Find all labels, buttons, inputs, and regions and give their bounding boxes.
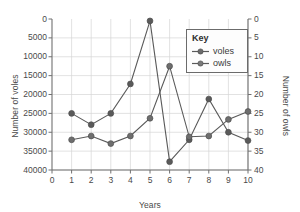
data-point-owls-3 [108,141,114,147]
data-point-voles-6 [167,159,173,165]
data-point-voles-9 [226,129,232,135]
data-point-voles-8 [206,96,212,102]
legend-title: Key [192,33,242,43]
legend-item-voles: voles [192,45,242,57]
data-point-voles-1 [69,110,75,116]
data-point-voles-2 [88,122,94,128]
data-point-voles-10 [245,138,251,144]
data-point-owls-5 [147,115,153,121]
data-point-voles-3 [108,110,114,116]
legend-marker-voles-icon [192,47,209,56]
data-point-owls-7 [186,134,192,140]
data-point-owls-4 [127,133,133,139]
legend-label-voles: voles [213,45,234,57]
data-point-owls-1 [69,137,75,143]
data-point-owls-9 [226,117,232,123]
data-point-voles-4 [127,81,133,87]
data-point-voles-5 [147,18,153,24]
data-point-owls-8 [206,133,212,139]
legend-marker-owls-icon [192,59,209,68]
data-point-owls-10 [245,109,251,115]
line-chart: Number of voles Number of owls Years 050… [0,0,300,212]
data-point-owls-6 [167,63,173,69]
plot-area [0,0,300,212]
data-point-owls-2 [88,133,94,139]
legend-box: Key voles owls [186,29,248,73]
legend-label-owls: owls [213,57,231,69]
legend-item-owls: owls [192,57,242,69]
